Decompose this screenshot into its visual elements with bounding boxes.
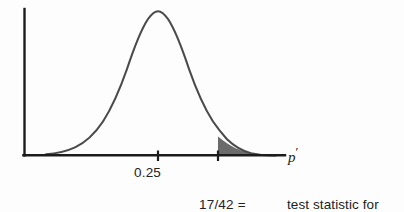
tick-label-critical-line1: 17/42 =	[199, 197, 246, 212]
distribution-figure: p′ 0.25 17/42 = 0.4048 test statistic fo…	[0, 0, 404, 212]
x-axis-label-prime: ′	[296, 144, 299, 159]
test-statistic-line1: test statistic for	[287, 197, 379, 212]
x-axis-label: p′	[288, 144, 298, 166]
tick-label-critical: 17/42 = 0.4048	[199, 165, 246, 212]
test-statistic-note: test statistic for 17/42: 2.3163	[287, 165, 379, 212]
normal-curve	[46, 11, 276, 155]
x-axis-label-text: p	[288, 149, 296, 165]
tick-label-mean: 0.25	[134, 165, 161, 181]
